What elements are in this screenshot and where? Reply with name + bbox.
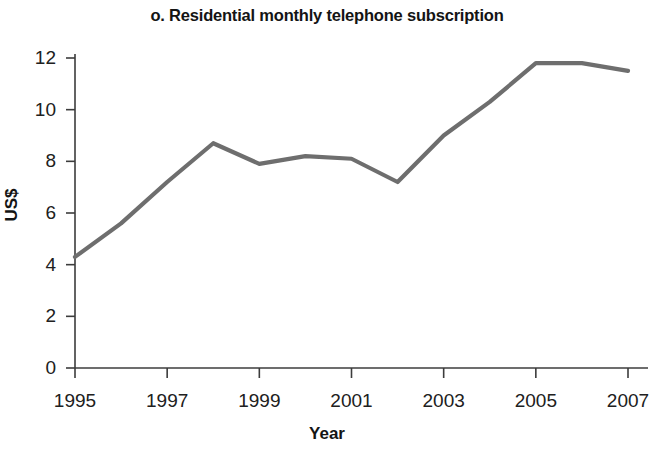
- plot-area: [0, 0, 654, 449]
- chart-axes: [75, 54, 648, 368]
- chart-figure: o. Residential monthly telephone subscri…: [0, 0, 654, 449]
- data-series-line: [75, 63, 628, 257]
- chart-tick-marks: [66, 58, 628, 378]
